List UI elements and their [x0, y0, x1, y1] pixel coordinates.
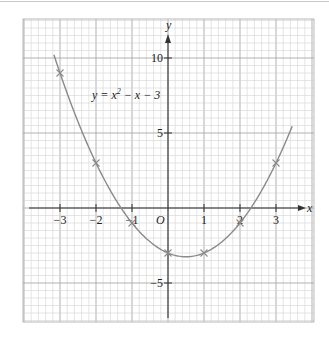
x-tick-label: −3 [54, 213, 67, 227]
x-tick-label: 1 [201, 213, 207, 227]
y-tick-label: −5 [150, 276, 163, 290]
y-tick-label: 10 [151, 51, 163, 65]
y-tick-label: 5 [157, 126, 163, 140]
equation-label: y = x2 − x − 3 [91, 87, 160, 102]
axes: x y O [29, 18, 313, 318]
quadratic-graph: x y O −3−2−1123105−5 y = x2 − x − 3 [0, 0, 329, 344]
origin-label: O [156, 213, 165, 227]
x-tick-label: −1 [126, 213, 139, 227]
x-axis-label: x [306, 201, 313, 215]
equation-rhs: − x − 3 [121, 88, 161, 102]
y-axis-label: y [165, 18, 172, 32]
x-tick-label: −2 [90, 213, 103, 227]
equation-lhs: y = x [91, 88, 117, 102]
x-tick-label: 3 [273, 213, 279, 227]
